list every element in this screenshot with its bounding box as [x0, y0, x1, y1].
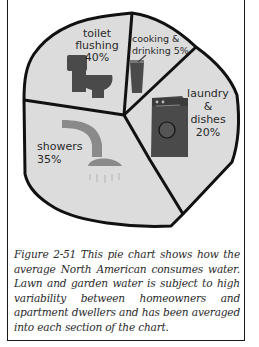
- label-line: laundry: [187, 87, 229, 100]
- label-line: 40%: [85, 51, 109, 64]
- label-line: drinking 5%: [132, 45, 189, 56]
- label-line: cooking &: [132, 33, 180, 44]
- label-line: 20%: [196, 126, 220, 139]
- label-line: showers: [37, 140, 83, 153]
- label-line: 35%: [37, 153, 61, 166]
- pie-chart: toilet flushing 40% cooking & drinking 5…: [0, 0, 259, 240]
- washing-machine-icon: [151, 96, 188, 157]
- label-line: dishes: [190, 113, 226, 126]
- label-line: &: [204, 100, 213, 113]
- figure-caption: Figure 2-51 This pie chart shows how the…: [14, 247, 240, 335]
